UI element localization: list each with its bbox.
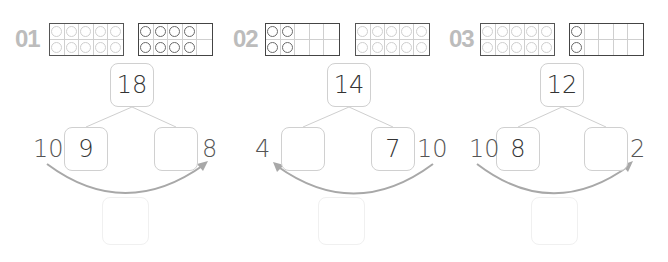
- left-part-box[interactable]: 8: [496, 127, 540, 171]
- right-part-box[interactable]: [584, 127, 628, 171]
- whole-box[interactable]: 18: [110, 63, 154, 107]
- right-part-box[interactable]: [154, 127, 198, 171]
- answer-box[interactable]: [318, 197, 365, 245]
- answer-box[interactable]: [102, 197, 149, 245]
- right-side-label: 8: [202, 134, 217, 164]
- right-part-box[interactable]: 7: [371, 127, 415, 171]
- problem-01: 01 18 9 10 8: [0, 0, 222, 262]
- problem-02: 02 14 7 4 10: [217, 0, 439, 262]
- problem-03: 03 12 8 10 2: [431, 0, 653, 262]
- left-part-box[interactable]: 9: [64, 127, 108, 171]
- left-side-label: 10: [469, 134, 500, 164]
- answer-box[interactable]: [531, 197, 578, 245]
- left-side-label: 4: [255, 134, 270, 164]
- whole-box[interactable]: 12: [540, 63, 584, 107]
- whole-box[interactable]: 14: [327, 63, 371, 107]
- left-side-label: 10: [33, 134, 64, 164]
- right-side-label: 2: [630, 134, 645, 164]
- left-part-box[interactable]: [281, 127, 325, 171]
